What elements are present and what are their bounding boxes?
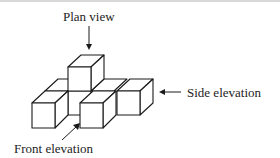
cube-right (117, 79, 153, 115)
cube-diagram (0, 0, 280, 158)
side-elevation-arrow (159, 89, 181, 95)
front-elevation-label: Front elevation (14, 142, 93, 155)
plan-view-label: Plan view (63, 10, 115, 23)
side-elevation-label: Side elevation (187, 86, 261, 99)
plan-view-arrow (86, 26, 92, 50)
front-elevation-arrow (62, 123, 80, 140)
cube-front-left (32, 91, 68, 128)
